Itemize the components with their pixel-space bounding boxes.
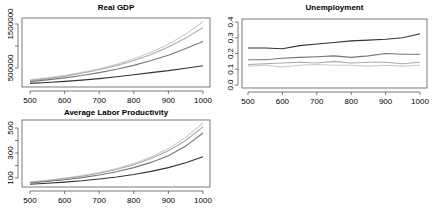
series-line-series-2 (30, 133, 203, 183)
x-tick-label: 1000 (194, 196, 212, 205)
y-tick-label: 0.1 (226, 63, 235, 75)
series-line-series-2 (30, 42, 203, 82)
series-line-series-1 (30, 66, 203, 84)
x-tick-label: 1000 (194, 96, 212, 105)
x-tick-label: 600 (276, 97, 290, 106)
x-tick-label: 500 (23, 96, 37, 105)
y-tick-label: 500 (6, 121, 15, 135)
x-tick-label: 900 (379, 97, 393, 106)
x-tick-label: 800 (127, 96, 141, 105)
x-tick-label: 500 (241, 97, 255, 106)
x-tick-label: 800 (127, 196, 141, 205)
x-tick-label: 900 (162, 196, 176, 205)
labor-productivity-panel: Average Labor Productivity50060070080090… (6, 108, 212, 205)
y-axis: 100300500 (6, 121, 18, 185)
series-line-series-2 (248, 54, 420, 60)
series-line-series-3 (30, 28, 203, 81)
series-lines (30, 123, 203, 184)
plot-frame (242, 19, 427, 88)
y-tick-label: 100 (6, 171, 15, 185)
y-tick-label: 0.2 (226, 47, 235, 59)
series-line-series-4 (30, 123, 203, 182)
y-tick-label: 1500000 (6, 8, 15, 40)
y-tick-label: 0.0 (226, 79, 235, 91)
unemployment-panel: Unemployment50060070080090010000.00.10.2… (226, 3, 429, 106)
y-tick-label: 500000 (6, 54, 15, 81)
y-tick-label: 300 (6, 146, 15, 160)
series-line-series-4 (30, 22, 203, 80)
y-tick-label: 0.3 (226, 32, 235, 44)
real-gdp-panel: Real GDP50060070080090010005000001500000 (6, 3, 212, 105)
x-axis: 5006007008009001000 (241, 92, 429, 106)
chart-title: Average Labor Productivity (64, 108, 169, 117)
series-lines (248, 34, 420, 67)
y-axis: 5000001500000 (6, 8, 18, 81)
series-lines (30, 22, 203, 84)
series-line-series-4 (248, 65, 420, 67)
x-tick-label: 700 (310, 97, 324, 106)
series-line-series-1 (248, 34, 420, 49)
x-tick-label: 700 (93, 96, 107, 105)
chart-title: Real GDP (98, 3, 135, 12)
y-tick-label: 0.4 (226, 16, 235, 28)
series-line-series-3 (30, 127, 203, 183)
x-tick-label: 800 (345, 97, 359, 106)
x-tick-label: 500 (23, 196, 37, 205)
y-axis: 0.00.10.20.30.4 (226, 16, 238, 91)
x-tick-label: 1000 (411, 97, 429, 106)
x-tick-label: 600 (58, 196, 72, 205)
x-axis: 5006007008009001000 (23, 191, 212, 205)
x-tick-label: 700 (93, 196, 107, 205)
series-line-series-3 (248, 61, 420, 64)
x-tick-label: 900 (162, 96, 176, 105)
x-axis: 5006007008009001000 (23, 91, 212, 105)
chart-canvas: Real GDP50060070080090010005000001500000… (0, 0, 433, 209)
x-tick-label: 600 (58, 96, 72, 105)
chart-title: Unemployment (306, 3, 364, 12)
